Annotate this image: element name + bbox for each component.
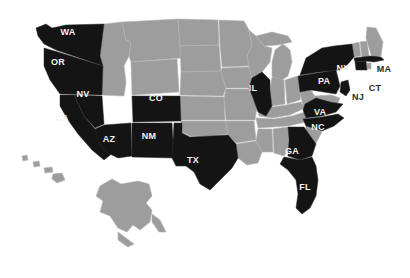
state-MN[interactable] [219,20,252,67]
state-HI-maui[interactable] [44,167,53,173]
state-FL[interactable] [280,157,318,214]
state-ND[interactable] [178,19,219,46]
state-NM[interactable] [132,123,174,158]
state-KS[interactable] [180,96,225,120]
state-RI[interactable] [367,63,371,69]
us-state-selection-map: WA OR NV CA CO AZ NM TX IL PA NY MA CT N… [0,0,410,278]
state-NE[interactable] [180,71,226,96]
state-CT[interactable] [355,61,367,70]
state-OK[interactable] [181,121,228,136]
state-NJ[interactable] [340,80,350,96]
state-IN[interactable] [270,77,285,106]
state-CO[interactable] [132,96,181,122]
state-MI[interactable] [272,44,292,82]
state-AL[interactable] [273,127,289,156]
state-IA[interactable] [221,67,252,88]
state-AK[interactable] [96,179,152,232]
state-HI-oahu[interactable] [33,161,40,167]
state-WY[interactable] [131,59,179,95]
state-AK-panhandle[interactable] [152,214,166,232]
us-map-svg [0,0,410,278]
state-HI-kauai[interactable] [22,155,28,161]
state-MT[interactable] [122,19,181,62]
state-MA[interactable] [354,56,384,62]
state-NY[interactable] [300,44,354,75]
state-SD[interactable] [180,45,221,72]
state-AK-aleutians[interactable] [118,232,134,247]
state-HI-bigisland[interactable] [52,173,65,183]
